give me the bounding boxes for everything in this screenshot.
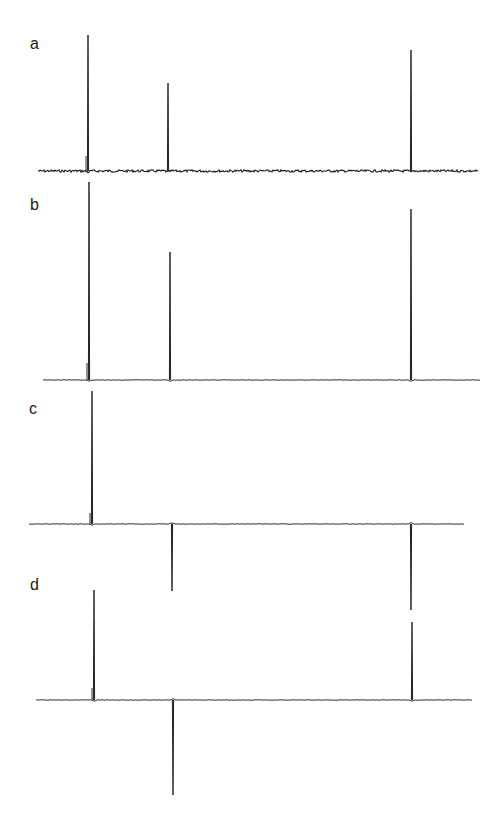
peak-d-3: [411, 622, 412, 700]
spectrum-panel-d: [36, 590, 472, 795]
peak-b-3: [410, 209, 411, 380]
panel-label-a: a: [30, 36, 39, 52]
peak-d-2: [172, 700, 173, 795]
spectrum-panel-c: [29, 391, 464, 610]
peak-b-1: [88, 182, 89, 380]
peak-d-1: [93, 590, 94, 700]
spectra-plot: [0, 0, 503, 832]
spectrum-panel-a: [38, 35, 478, 173]
baseline-d: [36, 699, 472, 701]
peak-c-2: [171, 524, 172, 591]
spectra-figure: a b c d: [0, 0, 503, 832]
baseline-b: [43, 380, 480, 382]
peak-a-3: [410, 50, 411, 171]
peak-c-1: [91, 391, 92, 524]
panel-label-b: b: [30, 197, 39, 213]
panel-label-c: c: [29, 401, 37, 417]
peak-c-3: [410, 524, 411, 610]
peak-b-2: [169, 252, 170, 380]
spectrum-panel-b: [43, 182, 480, 381]
baseline-c: [29, 523, 464, 526]
peak-a-1: [87, 35, 88, 171]
panel-label-d: d: [30, 577, 39, 593]
peak-a-2: [167, 83, 168, 171]
